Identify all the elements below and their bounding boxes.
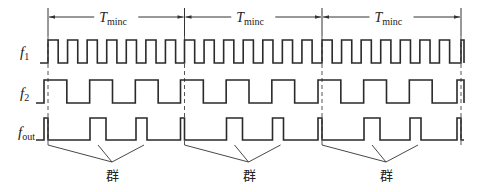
group-annotations: 群群群 (48, 145, 418, 183)
waveform-fout (36, 118, 464, 140)
period-dimensions: TmincTmincTminc (49, 10, 460, 27)
group-label: 群 (243, 168, 256, 183)
group-label: 群 (106, 168, 119, 183)
period-label-t-minc: Tminc (375, 10, 403, 27)
signal-label-f1: f1 (20, 44, 29, 62)
svg-text:f1: f1 (20, 44, 29, 62)
signal-label-f2: f2 (20, 85, 29, 103)
waveform-f1 (40, 40, 464, 63)
waveform-f2 (36, 80, 464, 103)
period-boundaries (48, 8, 461, 148)
svg-text:f2: f2 (20, 85, 29, 103)
period-label-t-minc: Tminc (99, 10, 127, 27)
group-label: 群 (380, 168, 393, 183)
svg-text:fout: fout (18, 124, 35, 142)
period-label-t-minc: Tminc (236, 10, 264, 27)
timing-diagram: TmincTmincTminc f1 f2 fout 群群群 (0, 0, 482, 192)
signal-label-fout: fout (18, 124, 35, 142)
